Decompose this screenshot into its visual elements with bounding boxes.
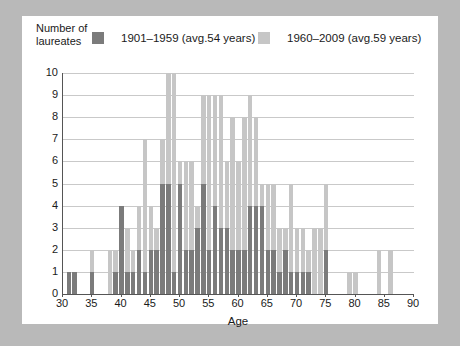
chart-panel: Number of laureates 1901–1959 (avg.54 ye… [22,16,438,324]
bar-segment [143,272,147,294]
x-tick-label: 45 [138,297,162,309]
bar-segment [207,95,211,250]
y-tick-label: 8 [34,110,58,122]
bar-segment [154,250,158,294]
bar-segment [324,184,328,250]
bar-segment [312,228,316,294]
bar-segment [295,228,299,272]
bar-segment [306,250,310,272]
x-axis-title: Age [62,315,414,327]
bar-segment [324,250,328,294]
bar-segment [166,73,170,184]
bar-series-container [63,73,414,294]
bar-segment [306,272,310,294]
y-tick-label: 2 [34,243,58,255]
legend-series-1901-1959[interactable]: 1901–1959 (avg.54 years) [92,32,255,44]
plot-area: 012345678910 30354045505560657075808590 … [62,73,414,295]
legend-label-1901-1959: 1901–1959 (avg.54 years) [121,32,255,44]
bar-segment [67,272,71,294]
bar-segment [266,250,270,294]
bar-segment [236,250,240,294]
bar-segment [201,95,205,183]
legend-swatch-1960-2009 [258,32,270,44]
x-axis-ticks: 30354045505560657075808590 [62,297,414,313]
bar-segment [242,117,246,250]
bar-segment [219,228,223,294]
bar-segment [201,184,205,295]
bar-segment [172,272,176,294]
bar-segment [178,184,182,295]
bar-segment [219,95,223,228]
bar-segment [189,250,193,294]
bar-segment [90,250,94,272]
bar-segment [377,250,381,294]
bar-segment [131,272,135,294]
bar-segment [160,184,164,295]
chart-legend: Number of laureates 1901–1959 (avg.54 ye… [22,16,438,60]
bar-segment [137,250,141,294]
bar-segment [149,206,153,250]
bar-segment [195,206,199,228]
y-tick-label: 3 [34,221,58,233]
legend-swatch-1901-1959 [92,32,104,44]
x-tick-label: 90 [401,297,425,309]
x-tick-label: 85 [372,297,396,309]
bar-segment [225,228,229,294]
x-tick-label: 70 [284,297,308,309]
bar-segment [254,117,258,205]
bar-segment [260,184,264,206]
y-tick-label: 10 [34,66,58,78]
bar-segment [137,206,141,250]
bar-segment [230,250,234,294]
bar-segment [189,161,193,249]
x-tick-label: 75 [313,297,337,309]
legend-series-1960-2009[interactable]: 1960–2009 (avg.59 years) [258,32,421,44]
bar-segment [266,184,270,250]
bar-segment [131,250,135,272]
y-tick-label: 7 [34,132,58,144]
bar-segment [178,161,182,183]
y-tick-label: 4 [34,199,58,211]
x-tick-label: 60 [226,297,250,309]
bar-segment [108,250,112,294]
bar-segment [195,228,199,294]
x-tick-label: 35 [79,297,103,309]
bar-segment [242,250,246,294]
bar-segment [213,206,217,294]
x-tick-label: 55 [196,297,220,309]
legend-label-1960-2009: 1960–2009 (avg.59 years) [287,32,421,44]
bar-segment [248,206,252,294]
bar-segment [184,161,188,249]
y-axis-title: Number of laureates [36,22,87,47]
x-tick-label: 50 [167,297,191,309]
bar-segment [295,272,299,294]
bar-segment [154,228,158,250]
bar-segment [301,272,305,294]
bar-segment [184,250,188,294]
bar-segment [289,272,293,294]
bar-segment [277,228,281,272]
bar-segment [283,250,287,294]
x-tick-label: 80 [343,297,367,309]
bar-segment [271,250,275,294]
y-tick-label: 5 [34,177,58,189]
bar-segment [172,73,176,272]
bar-segment [143,139,147,272]
bar-segment [90,272,94,294]
bar-segment [207,250,211,294]
figure-background: Number of laureates 1901–1959 (avg.54 ye… [0,0,460,346]
bar-segment [260,206,264,294]
bar-segment [125,228,129,272]
bar-segment [225,161,229,227]
bar-segment [113,272,117,294]
bar-segment [289,184,293,272]
bar-segment [388,250,392,294]
bar-segment [283,228,287,250]
bar-segment [353,272,357,294]
bar-segment [347,272,351,294]
bar-segment [166,184,170,295]
y-tick-label: 6 [34,154,58,166]
y-tick-label: 1 [34,265,58,277]
bar-segment [254,206,258,294]
bar-segment [119,206,123,294]
